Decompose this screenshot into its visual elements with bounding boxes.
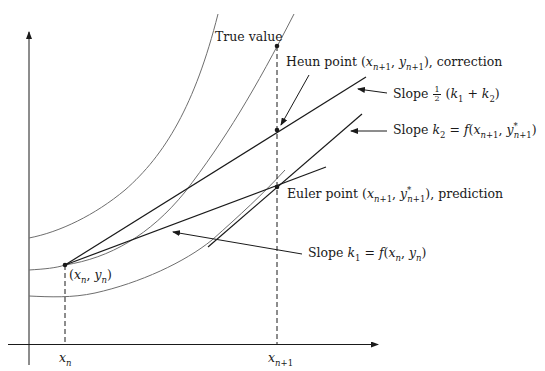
solution-curve-upper bbox=[29, 14, 218, 238]
euler-point-label: Euler point (xn+1, y*n+1), prediction bbox=[287, 188, 503, 201]
euler-point bbox=[275, 185, 280, 190]
heun-point-prefix: Heun point bbox=[286, 54, 361, 69]
arrow-heun-point bbox=[281, 75, 309, 125]
heun-point-coords: (xn+1, yn+1) bbox=[361, 54, 429, 69]
heun-point-suffix: , correction bbox=[429, 54, 502, 69]
euler-point-suffix: , prediction bbox=[430, 186, 503, 201]
euler-point-prefix: Euler point bbox=[287, 186, 362, 201]
slope-avg-label: Slope 12 (k1 + k2) bbox=[393, 86, 500, 103]
x-tick-xn: xn bbox=[59, 350, 72, 365]
solution-curve-lower bbox=[29, 170, 285, 297]
start-point-label: (xn, yn) bbox=[69, 269, 112, 282]
start-point bbox=[63, 263, 68, 268]
fraction-denominator: 2 bbox=[433, 95, 440, 103]
slope-k1-label: Slope k1 = f(xn, yn) bbox=[308, 247, 426, 260]
x-tick-xn1: xn+1 bbox=[268, 350, 293, 365]
arrow-slope-k1 bbox=[173, 232, 302, 254]
slope-k2-line bbox=[208, 114, 362, 247]
slope-k1-expr: k1 = f(xn, yn) bbox=[347, 245, 426, 260]
x-tick-label-xn: xn bbox=[59, 352, 72, 365]
heun-point bbox=[275, 128, 280, 133]
slope-avg-expr: (k1 + k2) bbox=[446, 86, 500, 101]
slope-avg-prefix: Slope bbox=[393, 86, 432, 101]
slope-k2-label: Slope k2 = f(xn+1, y*n+1) bbox=[393, 124, 537, 137]
heun-method-diagram: True value Heun point (xn+1, yn+1), corr… bbox=[0, 0, 545, 371]
slope-k1-prefix: Slope bbox=[308, 245, 347, 260]
arrow-slope-avg bbox=[358, 89, 387, 93]
euler-point-coords: (xn+1, y*n+1) bbox=[362, 186, 430, 201]
heun-point-label: Heun point (xn+1, yn+1), correction bbox=[286, 56, 502, 69]
solution-curve-true bbox=[29, 14, 294, 270]
one-half-fraction: 12 bbox=[433, 86, 440, 103]
start-point-coords: (xn, yn) bbox=[69, 267, 112, 282]
slope-k2-expr: k2 = f(xn+1, y*n+1) bbox=[432, 122, 536, 137]
slope-k2-prefix: Slope bbox=[393, 122, 432, 137]
x-tick-label-xn1: xn+1 bbox=[268, 352, 293, 365]
true-value-text: True value bbox=[215, 29, 283, 44]
true-value-label: True value bbox=[215, 31, 283, 44]
slope-k1-line bbox=[65, 167, 326, 265]
true-value-point bbox=[275, 44, 280, 49]
